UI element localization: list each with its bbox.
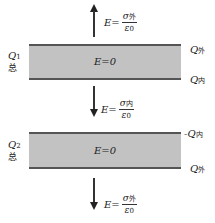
numerator-subscript: 外 xyxy=(129,13,136,21)
charge-symbol: Q xyxy=(190,163,198,174)
top-field-arrow xyxy=(93,11,95,37)
plate-2-outer-charge-label: Q外 xyxy=(190,163,205,176)
charge-subscript: 2 xyxy=(16,142,20,150)
charge-subscript: 内 xyxy=(196,131,203,139)
plate-1-field-label: E=0 xyxy=(29,56,181,67)
plate-2-field-label: E=0 xyxy=(29,145,181,156)
charge-symbol: -Q xyxy=(184,128,196,139)
plate-1-outer-charge-label: Q外 xyxy=(190,44,205,57)
total-zh-label: 总 xyxy=(8,63,21,74)
plate-1-total-charge-label: Q1 总 xyxy=(8,50,21,74)
plate-2-total-charge-label: Q2 总 xyxy=(8,139,21,163)
charge-symbol: Q xyxy=(8,139,16,150)
bottom-field-arrow xyxy=(93,178,95,203)
numerator-subscript: 外 xyxy=(129,195,136,203)
formula-lhs: E= xyxy=(101,104,117,115)
denominator: ε0 xyxy=(125,205,134,216)
plate-1: E=0 xyxy=(29,44,181,80)
bottom-field-arrow-head-icon xyxy=(90,202,98,210)
denominator-subscript: 0 xyxy=(129,207,133,215)
middle-field-arrow xyxy=(93,86,95,110)
formula-lhs: E= xyxy=(104,17,120,28)
numerator: σ内 xyxy=(119,98,134,110)
denominator-subscript: 0 xyxy=(126,112,130,120)
numerator-subscript: 内 xyxy=(126,100,133,108)
middle-field-arrow-head-icon xyxy=(90,109,98,117)
total-zh-label: 总 xyxy=(8,152,21,163)
denominator-subscript: 0 xyxy=(129,25,133,33)
charge-subscript: 内 xyxy=(198,77,205,85)
top-field-formula: E= σ外 ε0 xyxy=(104,11,137,34)
middle-field-formula: E= σ内 ε0 xyxy=(101,98,134,121)
numerator: σ外 xyxy=(122,193,137,205)
formula-lhs: E= xyxy=(104,199,120,210)
denominator: ε0 xyxy=(125,23,134,34)
plate-1-inner-charge-label: Q内 xyxy=(190,74,205,87)
charge-subscript: 外 xyxy=(198,47,205,55)
charge-symbol: Q xyxy=(190,44,198,55)
numerator: σ外 xyxy=(122,11,137,23)
charge-symbol: Q xyxy=(190,74,198,85)
fraction: σ外 ε0 xyxy=(122,11,137,34)
charge-subscript: 1 xyxy=(16,53,20,61)
fraction: σ内 ε0 xyxy=(119,98,134,121)
fraction: σ外 ε0 xyxy=(122,193,137,216)
plate-2-inner-charge-label: -Q内 xyxy=(184,128,203,141)
bottom-field-formula: E= σ外 ε0 xyxy=(104,193,137,216)
plate-2: E=0 xyxy=(29,132,181,169)
charge-symbol: Q xyxy=(8,50,16,61)
denominator: ε0 xyxy=(122,110,131,121)
charge-subscript: 外 xyxy=(198,166,205,174)
